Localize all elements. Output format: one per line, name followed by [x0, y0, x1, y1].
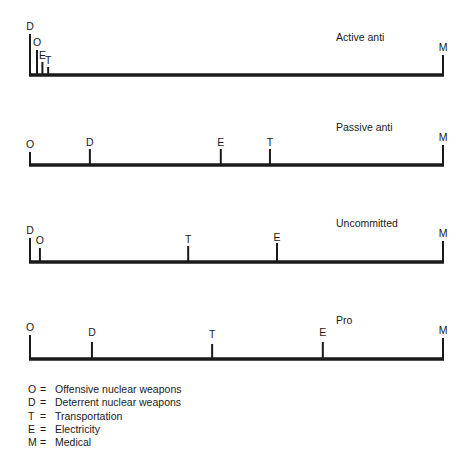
marker-label-o: O — [36, 234, 44, 246]
panel-title: Passive anti — [336, 121, 393, 133]
legend-equals: = — [40, 410, 55, 423]
marker-label-o: O — [26, 321, 34, 333]
marker-label-d: D — [26, 20, 34, 32]
legend-key: E — [28, 423, 40, 436]
marker-label-e: E — [217, 136, 224, 148]
legend-item-electricity: E=Electricity — [28, 423, 181, 436]
legend-item-offensive: O=Offensive nuclear weapons — [28, 383, 181, 396]
marker-label-t: T — [209, 328, 216, 340]
panel-title: Pro — [336, 314, 353, 326]
marker-label-d: D — [88, 326, 96, 338]
marker-label-e: E — [319, 326, 326, 338]
panel-title: Active anti — [336, 31, 384, 43]
legend-label: Offensive nuclear weapons — [55, 383, 181, 395]
legend-equals: = — [40, 436, 55, 449]
marker-label-o: O — [33, 36, 41, 48]
legend: O=Offensive nuclear weapons D=Deterrent … — [28, 383, 181, 449]
legend-item-deterrent: D=Deterrent nuclear weapons — [28, 396, 181, 409]
marker-label-m: M — [439, 324, 448, 336]
legend-key: M — [28, 436, 40, 449]
marker-label-m: M — [439, 131, 448, 143]
legend-label: Medical — [55, 436, 91, 448]
legend-item-medical: M=Medical — [28, 436, 181, 449]
legend-key: T — [28, 410, 40, 423]
legend-key: O — [28, 383, 40, 396]
marker-label-d: D — [26, 224, 34, 236]
legend-equals: = — [40, 423, 55, 436]
legend-label: Electricity — [55, 423, 100, 435]
scale-panel-active-anti: Active antiDOETM — [26, 20, 447, 75]
scale-panel-passive-anti: Passive antiODETM — [26, 121, 447, 165]
legend-label: Deterrent nuclear weapons — [55, 396, 181, 408]
marker-label-m: M — [439, 227, 448, 239]
panel-title: Uncommitted — [336, 217, 398, 229]
scale-panel-uncommitted: UncommittedDOTEM — [26, 217, 447, 262]
marker-label-t: T — [45, 54, 52, 66]
marker-label-t: T — [185, 233, 192, 245]
marker-label-d: D — [86, 136, 94, 148]
legend-equals: = — [40, 383, 55, 396]
marker-label-o: O — [26, 138, 34, 150]
marker-label-m: M — [439, 41, 448, 53]
legend-equals: = — [40, 396, 55, 409]
legend-item-transportation: T=Transportation — [28, 410, 181, 423]
marker-label-t: T — [267, 136, 274, 148]
scale-panel-pro: ProODTEM — [26, 314, 447, 359]
legend-key: D — [28, 396, 40, 409]
legend-label: Transportation — [55, 410, 122, 422]
marker-label-e: E — [273, 231, 280, 243]
